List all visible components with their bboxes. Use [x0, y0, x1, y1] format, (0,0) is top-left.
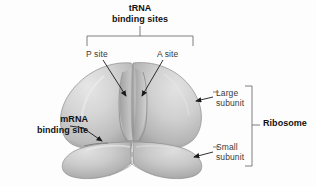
small-subunit-label: Small subunit [216, 142, 244, 162]
ribosome-label: Ribosome [263, 118, 307, 129]
ribosome-bracket [245, 86, 260, 166]
ribosome-illustration [0, 0, 316, 186]
small-subunit-pointer [194, 152, 213, 157]
trna-bracket [87, 26, 193, 46]
small-subunit-shape [62, 142, 202, 179]
ribosome-figure: tRNA binding sites P site A site Large s… [0, 0, 316, 186]
trna-binding-sites-label: tRNA binding sites [88, 3, 192, 25]
a-site-label: A site [157, 49, 178, 59]
large-subunit-pointer [196, 97, 213, 101]
p-site-label: P site [86, 49, 108, 59]
large-subunit-label: Large subunit [216, 88, 244, 108]
mrna-binding-site-label: mRNA binding site [2, 114, 88, 136]
